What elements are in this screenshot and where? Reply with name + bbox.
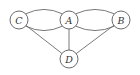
edge-c-d-straight (26, 26, 62, 54)
node-a: A (60, 11, 78, 29)
nodes-group: C A B D (10, 11, 130, 68)
node-b: B (112, 11, 130, 29)
node-d: D (60, 50, 78, 68)
node-c-label: C (15, 15, 23, 26)
node-c: C (10, 11, 28, 29)
graph-diagram: C A B D (0, 0, 140, 75)
edge-b-d-straight (76, 25, 114, 53)
edge-a-b-arc-down (76, 26, 115, 30)
node-a-label: A (65, 15, 73, 26)
node-b-label: B (117, 15, 125, 26)
edge-a-b-arc-up (76, 9, 115, 13)
node-d-label: D (64, 54, 73, 65)
edge-c-a-arc-up (26, 9, 63, 13)
